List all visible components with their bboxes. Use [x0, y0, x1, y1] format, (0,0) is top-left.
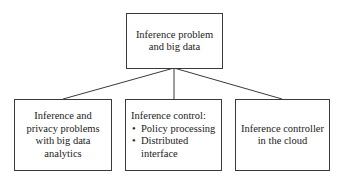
connector-left: [63, 68, 174, 99]
child-node-label: Inference controller in the cloud: [236, 123, 329, 148]
bullet-item: Distributed interface: [131, 135, 221, 160]
child-node-inference-control: Inference control: Policy processing Dis…: [125, 99, 222, 171]
child-node-title: Inference control:: [131, 110, 221, 123]
bullet-list: Policy processing Distributed interface: [131, 123, 221, 161]
child-node-cloud-controller: Inference controller in the cloud: [235, 99, 330, 171]
root-node: Inference problem and big data: [126, 13, 223, 69]
root-node-label: Inference problem and big data: [127, 29, 222, 54]
connector-right: [174, 68, 282, 99]
child-node-label: Inference and privacy problems with big …: [15, 110, 111, 160]
child-node-privacy-problems: Inference and privacy problems with big …: [14, 99, 112, 171]
bullet-item: Policy processing: [131, 123, 221, 136]
